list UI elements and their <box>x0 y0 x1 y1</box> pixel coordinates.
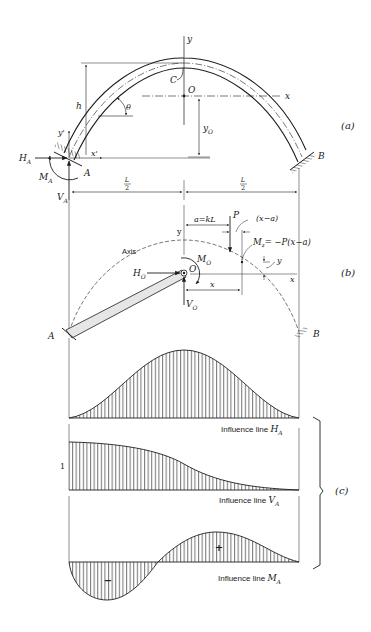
ma-label: MA <box>38 172 53 184</box>
arch-centerline <box>69 63 302 157</box>
part-a-arch: y C O x h θ yO A y' x' <box>18 34 355 206</box>
ha-label: HA <box>18 153 32 165</box>
influence-line-ma: + − Influence line MA <box>69 496 299 600</box>
height-label: h <box>76 101 82 111</box>
part-b-free-body: y Axis O x HO MO VO x a=kL P ( <box>47 200 355 360</box>
svg-text:L: L <box>124 176 129 184</box>
yo-label: yO <box>202 123 213 135</box>
va-unit-value: 1 <box>60 462 65 471</box>
va-label: VA <box>57 192 69 204</box>
centroid-leader <box>177 68 183 80</box>
ordinate-y-label: y <box>276 256 282 265</box>
load-position-label: a=kL <box>194 215 216 224</box>
local-x-label: x' <box>91 149 98 158</box>
b-support-a-label: A <box>47 331 55 341</box>
part-a-label: (a) <box>341 120 355 131</box>
b-origin-label: O <box>189 264 197 274</box>
ho-label: HO <box>132 268 146 280</box>
theta-label: θ <box>126 103 131 112</box>
right-half-span-label: L 2 <box>240 176 247 192</box>
moment-equation: Mz= −P(x−a) <box>252 237 311 248</box>
arm-label: (x−a) <box>256 214 278 223</box>
ma-negative-sign: − <box>104 575 112 586</box>
b-support-b-label: B <box>312 329 320 339</box>
arch-influence-line-figure: y C O x h θ yO A y' x' <box>0 0 371 632</box>
ma-positive-sign: + <box>215 542 223 553</box>
part-b-label: (b) <box>341 267 355 278</box>
part-c-label: (c) <box>335 485 349 496</box>
arch-intrados <box>74 68 298 162</box>
support-b-hatch <box>290 153 315 174</box>
support-a-label: A <box>83 168 91 178</box>
section-point <box>241 261 243 263</box>
b-x-axis-label: x <box>290 275 295 284</box>
ma-caption: Influence line MA <box>218 573 282 585</box>
origin-label: O <box>188 85 196 95</box>
left-half-span-label: L 2 <box>124 176 131 192</box>
mo-label: MO <box>196 254 211 266</box>
axis-word-label: Axis <box>122 247 136 256</box>
x-dimension-label: x <box>210 280 215 289</box>
va-caption: Influence line VA <box>219 495 280 507</box>
svg-text:2: 2 <box>125 184 129 192</box>
moment-eq-leader <box>242 245 252 260</box>
influence-line-ha: Influence line HA <box>69 350 299 436</box>
theta-arc <box>117 98 126 115</box>
part-c-influence-lines: Influence line HA 1 Influence line VA + … <box>60 338 349 600</box>
y-axis-label: y <box>186 34 193 44</box>
centroid-label: C <box>170 75 177 85</box>
local-y-label: y' <box>57 128 65 137</box>
rigid-arm <box>66 270 186 338</box>
support-b-label: B <box>317 151 325 161</box>
b-y-axis-label: y <box>176 227 182 236</box>
b-support-b <box>294 326 308 339</box>
support-a-fixed <box>54 142 82 166</box>
support-b-fixed <box>290 152 315 174</box>
load-p-label: P <box>232 210 240 220</box>
ha-caption: Influence line HA <box>221 424 283 436</box>
group-brace <box>313 417 323 569</box>
svg-text:L: L <box>240 176 245 184</box>
x-axis-label: x <box>285 91 290 101</box>
svg-text:2: 2 <box>241 184 245 192</box>
vo-label: VO <box>186 299 198 311</box>
influence-line-va: 1 Influence line VA <box>60 424 299 507</box>
